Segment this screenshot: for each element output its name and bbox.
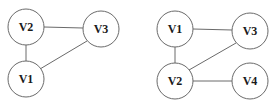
node-label: V2 [168,74,183,88]
node-v2: V2 [8,9,44,45]
edge-v1-v3 [193,29,232,30]
node-label: V3 [94,22,109,36]
edge-v1-v3 [40,41,87,69]
node-label: V1 [19,72,34,86]
node-label: V2 [19,20,34,34]
graph-left: V2 V3 V1 [8,9,119,97]
node-label: V4 [243,74,258,88]
node-v3: V3 [83,11,119,47]
node-label: V3 [243,24,258,38]
edge-v2-v3 [44,27,83,28]
graph-right: V1 V3 V2 V4 [157,11,268,99]
diagram-canvas: V2 V3 V1 V1 V3 V2 V4 [0,0,278,109]
node-label: V1 [168,22,183,36]
node-v4: V4 [232,63,268,99]
node-v2: V2 [157,63,193,99]
edge-v2-v3 [189,43,236,70]
node-v3: V3 [232,13,268,49]
node-v1: V1 [8,61,44,97]
node-v1: V1 [157,11,193,47]
